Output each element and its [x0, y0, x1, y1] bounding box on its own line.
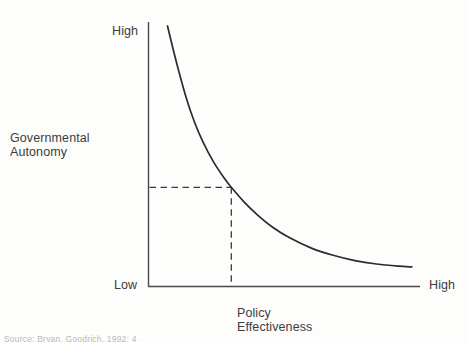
x-axis-tick-high: High [429, 279, 455, 293]
y-axis-tick-high: High [112, 25, 138, 39]
y-axis-title: Governmental Autonomy [10, 131, 90, 159]
source-note: Source: Bryan, Goodrich, 1992: 4 [4, 334, 137, 342]
figure-container: Governmental Autonomy High Low High Poli… [0, 0, 468, 342]
x-axis-title-line-2: Effectiveness [237, 320, 312, 334]
chart-canvas [0, 0, 468, 342]
x-axis-title: Policy Effectiveness [237, 306, 312, 334]
tradeoff-curve [168, 26, 412, 267]
x-axis-title-line-1: Policy [237, 306, 312, 320]
y-axis-tick-low: Low [114, 279, 137, 293]
y-axis-title-line-2: Autonomy [10, 145, 90, 159]
y-axis-title-line-1: Governmental [10, 131, 90, 145]
